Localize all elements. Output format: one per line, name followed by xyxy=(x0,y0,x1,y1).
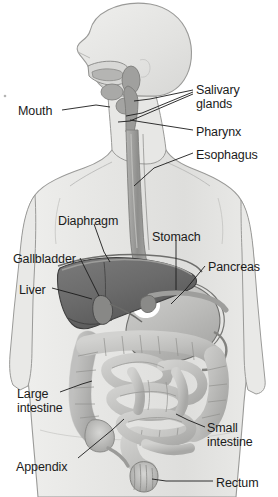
label-salivary-glands-line2: glands xyxy=(196,97,232,111)
label-small-intestine-line1: Small xyxy=(207,421,238,435)
label-appendix: Appendix xyxy=(16,461,67,475)
label-salivary-glands: Salivaryglands xyxy=(196,84,240,111)
small-intestine-coil-5 xyxy=(146,444,190,450)
label-mouth: Mouth xyxy=(18,105,52,119)
label-large-intestine: Largeintestine xyxy=(17,388,63,415)
leader-mouth xyxy=(62,105,110,110)
label-rectum: Rectum xyxy=(216,477,258,491)
sublingual-gland xyxy=(101,84,123,100)
tongue xyxy=(92,69,123,81)
label-diaphragm: Diaphragm xyxy=(58,215,118,229)
label-stomach: Stomach xyxy=(152,231,201,245)
label-gallbladder: Gallbladder xyxy=(13,253,76,267)
label-large-intestine-line1: Large xyxy=(17,387,48,401)
label-large-intestine-line2: intestine xyxy=(17,401,63,415)
label-small-intestine: Smallintestine xyxy=(207,422,253,449)
right-arm xyxy=(241,200,265,394)
label-liver: Liver xyxy=(19,284,46,298)
gallbladder xyxy=(93,295,113,324)
label-pharynx: Pharynx xyxy=(196,126,241,140)
rectum-group xyxy=(130,462,158,492)
digestive-system-figure: Mouth Salivaryglands Pharynx Esophagus D… xyxy=(0,0,278,497)
label-small-intestine-line2: intestine xyxy=(207,435,253,449)
pancreas-head xyxy=(140,295,156,312)
label-esophagus: Esophagus xyxy=(196,149,258,163)
label-salivary-glands-line1: Salivary xyxy=(196,83,240,97)
scan-speck-artifact xyxy=(4,95,7,98)
label-pancreas: Pancreas xyxy=(208,261,260,275)
